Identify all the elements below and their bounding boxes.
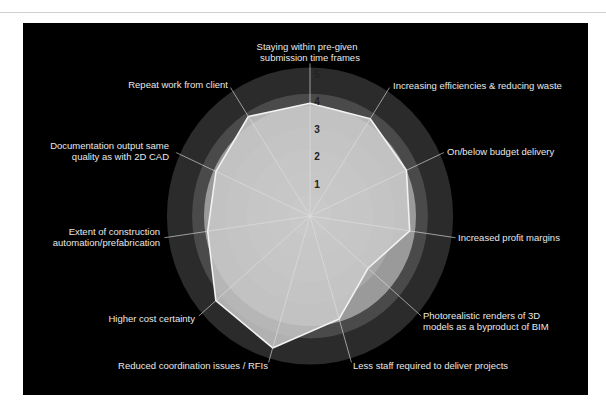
radial-tick-label: 1 bbox=[314, 179, 320, 190]
axis-label: Increased profit margins bbox=[458, 232, 560, 243]
radial-tick-label: 2 bbox=[314, 151, 320, 162]
axis-label: Increasing efficiencies & reducing waste bbox=[393, 80, 562, 91]
radial-tick-label: 5 bbox=[314, 69, 320, 80]
axis-label: Repeat work from client bbox=[128, 79, 228, 90]
axis-label: Documentation output samequality as with… bbox=[50, 140, 169, 162]
radial-tick-label: 4 bbox=[314, 96, 320, 107]
axis-label: Reduced coordination issues / RFIs bbox=[118, 360, 268, 371]
axis-label: Photorealistic renders of 3Dmodels as a … bbox=[423, 310, 549, 332]
axis-label: Less staff required to deliver projects bbox=[353, 360, 508, 371]
axis-label: Extent of constructionautomation/prefabr… bbox=[53, 226, 160, 248]
radial-tick-label: 3 bbox=[314, 124, 320, 135]
axis-label: Staying within pre-givensubmission time … bbox=[257, 41, 361, 63]
radar-chart: 12345 Staying within pre-givensubmission… bbox=[0, 0, 606, 411]
axis-label: On/below budget delivery bbox=[447, 146, 554, 157]
axis-label: Higher cost certainty bbox=[108, 313, 195, 324]
